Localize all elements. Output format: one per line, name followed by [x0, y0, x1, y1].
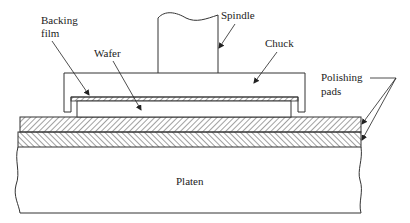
spindle [158, 13, 218, 73]
wafer-label: Wafer [94, 47, 121, 59]
backing-film-label-line2: film [41, 27, 60, 39]
backing-film [71, 97, 298, 101]
wafer [77, 101, 291, 117]
polishing-pad-upper [20, 117, 361, 132]
backing-film-label-line1: Backing [41, 14, 78, 26]
label-platen: Platen [176, 175, 204, 187]
label-chuck: Chuck [254, 37, 294, 83]
chuck-label: Chuck [265, 37, 294, 49]
polishing-pads-label-line1: Polishing [321, 71, 363, 83]
polishing-pad-lower [18, 132, 361, 147]
platen-label: Platen [176, 175, 204, 187]
cmp-diagram: Backing film Wafer Spindle Chuck Polishi… [0, 0, 410, 223]
spindle-label: Spindle [221, 9, 255, 21]
polishing-pads-label-line2: pads [321, 85, 341, 97]
label-spindle: Spindle [219, 9, 255, 48]
label-backing-film: Backing film [41, 14, 89, 95]
